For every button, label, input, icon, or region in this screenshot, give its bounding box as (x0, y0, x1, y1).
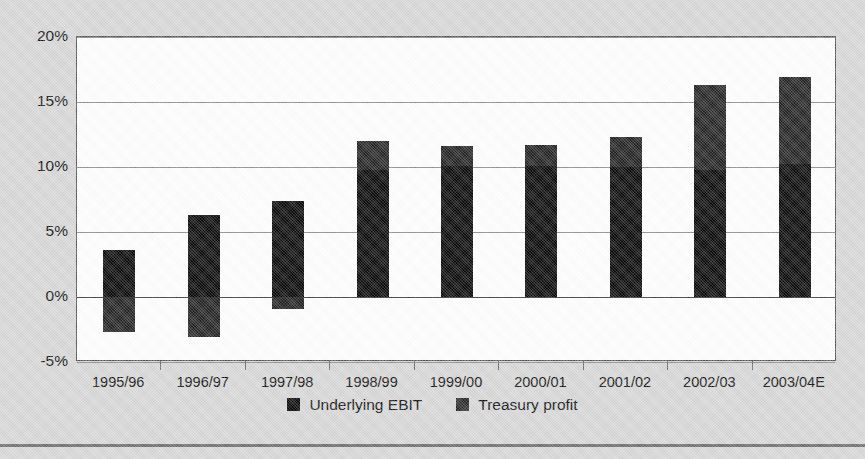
legend-swatch-icon (456, 398, 469, 411)
bars-layer (77, 37, 835, 360)
y-axis-tick-label: 10% (6, 158, 68, 174)
x-axis-tick-label: 2002/03 (683, 375, 735, 390)
bar-segment-underlying-ebit (103, 250, 135, 297)
y-axis-tick-label: 5% (6, 223, 68, 239)
bar-segment-treasury-profit (610, 137, 642, 167)
bar-group (188, 37, 220, 360)
legend-swatch-icon (287, 398, 300, 411)
bottom-rule-divider (0, 444, 865, 447)
bar-segment-treasury-profit (779, 77, 811, 164)
y-axis-tick-label: 20% (6, 28, 68, 44)
y-axis-tick-label: 0% (6, 288, 68, 304)
bar-group (694, 37, 726, 360)
bar-segment-treasury-profit (441, 146, 473, 166)
legend-label: Underlying EBIT (309, 397, 422, 413)
chart-legend: Underlying EBITTreasury profit (0, 397, 865, 413)
x-axis-tick-label: 2000/01 (514, 375, 566, 390)
legend-label: Treasury profit (478, 397, 577, 413)
bar-group (779, 37, 811, 360)
x-axis-tick (498, 361, 499, 370)
bar-segment-treasury-profit (525, 145, 557, 166)
x-axis-tick-label: 1995/96 (92, 375, 144, 390)
bar-segment-treasury-profit (188, 297, 220, 337)
bar-group (357, 37, 389, 360)
x-axis-tick-label: 2003/04E (763, 375, 825, 390)
y-axis-tick-label: 15% (6, 93, 68, 109)
bar-segment-underlying-ebit (441, 166, 473, 297)
bar-group (103, 37, 135, 360)
bar-group (610, 37, 642, 360)
chart-figure: 20%15%10%5%0%-5% 1995/961996/971997/9819… (0, 0, 865, 459)
bar-segment-treasury-profit (272, 297, 304, 309)
legend-item: Underlying EBIT (287, 397, 422, 413)
x-axis-tick-label: 1996/97 (176, 375, 228, 390)
x-axis-tick-label: 1998/99 (345, 375, 397, 390)
x-axis-tick (583, 361, 584, 370)
bar-segment-treasury-profit (103, 297, 135, 332)
x-axis-tick (329, 361, 330, 370)
bar-segment-underlying-ebit (779, 164, 811, 297)
bar-segment-underlying-ebit (694, 170, 726, 297)
x-axis-tick (414, 361, 415, 370)
x-axis-tick-label: 2001/02 (599, 375, 651, 390)
x-axis-tick (245, 361, 246, 370)
x-axis-tick (667, 361, 668, 370)
bar-segment-underlying-ebit (610, 167, 642, 297)
bar-segment-treasury-profit (357, 141, 389, 170)
bar-segment-underlying-ebit (525, 166, 557, 297)
x-axis-tick-label: 1999/00 (430, 375, 482, 390)
bar-group (525, 37, 557, 360)
bar-segment-underlying-ebit (272, 201, 304, 297)
x-axis-tick (160, 361, 161, 370)
plot-area (76, 36, 836, 361)
bar-segment-treasury-profit (694, 85, 726, 170)
x-axis-tick-label: 1997/98 (261, 375, 313, 390)
x-axis-tick (752, 361, 753, 370)
bar-group (272, 37, 304, 360)
bar-group (441, 37, 473, 360)
bar-segment-underlying-ebit (188, 215, 220, 297)
legend-item: Treasury profit (456, 397, 577, 413)
bar-segment-underlying-ebit (357, 170, 389, 297)
x-axis: 1995/961996/971997/981998/991999/002000/… (0, 361, 865, 401)
